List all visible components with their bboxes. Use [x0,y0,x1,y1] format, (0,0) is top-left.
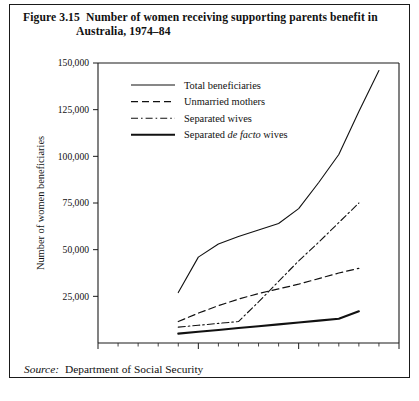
y-tick-label: 150,000 [58,57,89,68]
source-text: Department of Social Security [65,363,203,375]
source-label: Source: [24,363,59,375]
chart-series [178,70,379,333]
series-line-1 [178,268,359,321]
y-tick-label: 50,000 [63,244,90,255]
source-note: Source:Department of Social Security [24,362,203,376]
y-tick-label: 125,000 [58,104,89,115]
chart-plot-area: 25,00050,00075,000100,000125,000150,000 … [10,39,411,349]
legend-label-0: Total beneficiaries [184,80,261,91]
y-tick-label: 25,000 [63,291,90,302]
legend-label-1: Unmarried mothers [184,96,265,107]
y-axis-ticks: 25,00050,00075,000100,000125,000150,000 [58,57,98,301]
legend-label-3: Separated de facto wives [184,129,288,140]
chart-legend: Total beneficiariesUnmarried mothersSepa… [131,80,288,141]
legend-label-2: Separated wives [184,113,252,124]
figure-title-line2: Australia, 1974–84 [76,25,395,39]
y-tick-label: 75,000 [63,197,90,208]
line-chart: 25,00050,00075,000100,000125,000150,000 … [10,39,411,349]
series-line-2 [178,203,359,327]
y-tick-label: 100,000 [58,151,89,162]
figure-caption: Figure 3.15Number of women receiving sup… [23,11,395,39]
figure-number: Figure 3.15 [23,11,80,24]
series-line-3 [178,311,359,333]
y-axis-title: Number of women beneficiaries [35,136,46,270]
x-axis-ticks: 1970197519801985 [88,343,408,349]
figure-title-line1: Number of women receiving supporting par… [86,11,378,24]
figure-frame: Figure 3.15Number of women receiving sup… [9,4,410,378]
